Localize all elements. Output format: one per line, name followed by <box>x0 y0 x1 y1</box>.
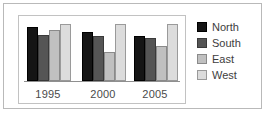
legend-label-south: South <box>212 36 241 50</box>
legend-swatch-south-icon <box>197 38 207 48</box>
legend-swatch-north-icon <box>197 22 207 32</box>
bar-east-2000[interactable] <box>104 52 115 81</box>
x-tick-label-2000: 2000 <box>80 88 126 100</box>
bar-south-2000[interactable] <box>93 36 104 81</box>
legend-item-east[interactable]: East <box>197 52 263 66</box>
plot-area: 1995 2000 2005 <box>18 15 186 104</box>
bar-south-1995[interactable] <box>38 35 49 81</box>
legend-label-north: North <box>212 20 239 34</box>
x-tick-label-2005: 2005 <box>132 88 178 100</box>
legend-swatch-west-icon <box>197 70 207 80</box>
legend-item-south[interactable]: South <box>197 36 263 50</box>
bar-east-2005[interactable] <box>156 46 167 81</box>
x-axis-tick-labels: 1995 2000 2005 <box>19 84 185 100</box>
chart-outer-frame: 1995 2000 2005 North South East West <box>3 3 262 109</box>
chart-legend: North South East West <box>197 20 263 84</box>
legend-item-north[interactable]: North <box>197 20 263 34</box>
bar-east-1995[interactable] <box>49 30 60 81</box>
legend-swatch-east-icon <box>197 54 207 64</box>
legend-item-west[interactable]: West <box>197 68 263 82</box>
bar-west-1995[interactable] <box>60 24 71 81</box>
bar-north-2005[interactable] <box>134 36 145 81</box>
x-tick-label-1995: 1995 <box>25 88 71 100</box>
bar-south-2005[interactable] <box>145 38 156 81</box>
legend-label-east: East <box>212 52 234 66</box>
bar-north-1995[interactable] <box>27 27 38 81</box>
legend-label-west: West <box>212 68 237 82</box>
bar-west-2005[interactable] <box>167 24 178 81</box>
x-axis-line <box>24 81 180 82</box>
bar-chart-figure: 1995 2000 2005 North South East West <box>0 0 267 115</box>
bar-west-2000[interactable] <box>115 24 126 81</box>
bar-north-2000[interactable] <box>82 32 93 81</box>
